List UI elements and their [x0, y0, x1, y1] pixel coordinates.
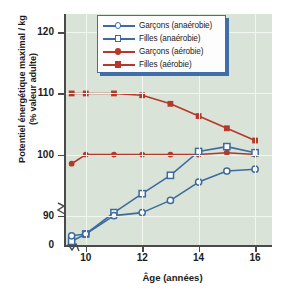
open-circle-marker-icon [103, 20, 135, 31]
gridline-horizontal [66, 155, 272, 156]
legend-item-filles-anaerobie: Filles (anaérobie) [103, 32, 221, 45]
x-axis-tick-label: 12 [129, 252, 155, 263]
data-point [69, 161, 75, 167]
x-axis-tick-label: 16 [242, 252, 268, 263]
gridline-vertical [86, 14, 87, 245]
y-axis-tick-label: 110 [28, 87, 54, 98]
x-axis-break-icon [66, 243, 82, 256]
legend-item-garcons-anaerobie: Garçons (anaérobie) [103, 19, 221, 32]
series-0 [69, 166, 259, 239]
data-point [224, 168, 230, 174]
y-axis-tick [58, 155, 65, 157]
data-point [167, 197, 173, 203]
legend-label: Garçons (aérobie) [135, 47, 203, 56]
data-point [224, 144, 230, 150]
y-axis-tick [58, 32, 65, 34]
legend-label: Garçons (anaérobie) [135, 21, 212, 30]
chart-figure: Potentiel énergétique maximal / kg (% va… [0, 0, 291, 298]
x-axis-title: Âge (années) [60, 272, 285, 283]
series-line [72, 147, 255, 242]
x-axis-line [64, 245, 272, 247]
x-axis-tick-label: 14 [186, 252, 212, 263]
data-point [167, 172, 173, 178]
series-line [72, 93, 255, 140]
filled-circle-marker-icon [103, 46, 135, 57]
data-point [224, 125, 230, 131]
series-1 [69, 144, 259, 245]
y-axis-break-icon [57, 200, 70, 216]
y-axis-tick-label: 100 [28, 149, 54, 160]
legend-item-garcons-aerobie: Garçons (aérobie) [103, 45, 221, 58]
y-axis-origin-label: 0 [28, 239, 54, 250]
series-2 [69, 150, 258, 167]
gridline-vertical [255, 14, 256, 245]
y-axis-tick [58, 93, 65, 95]
y-axis-tick-label: 90 [28, 210, 54, 221]
legend-label: Filles (anaérobie) [135, 34, 200, 43]
data-point [69, 233, 75, 239]
filled-square-marker-icon [103, 59, 135, 70]
data-point [168, 101, 174, 107]
series-3 [69, 91, 258, 144]
gridline-horizontal [66, 216, 272, 217]
y-axis-title-line1: Potentiel énergétique maximal / kg [17, 15, 27, 163]
legend-label: Filles (aérobie) [135, 60, 192, 69]
gridline-horizontal [66, 93, 272, 94]
chart-legend: Garçons (anaérobie) Filles (anaérobie) G… [97, 15, 226, 73]
legend-item-filles-aerobie: Filles (aérobie) [103, 58, 221, 71]
open-square-marker-icon [103, 33, 135, 44]
y-axis-tick-label: 120 [28, 26, 54, 37]
